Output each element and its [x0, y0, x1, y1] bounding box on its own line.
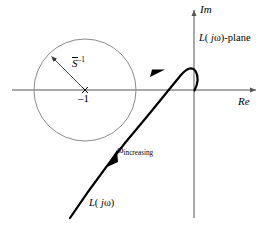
curve-label: L( jω): [89, 198, 114, 209]
omega-subscript: increasing: [124, 149, 154, 157]
nyquist-diagram: Im Re L( jω)-plane S–1 –1 ωincreasing L(…: [0, 0, 268, 226]
plane-label: L( jω)-plane: [199, 33, 251, 44]
omega-symbol: ω: [117, 144, 124, 155]
plane-label-omega: ω: [214, 32, 221, 43]
curve-direction-arrow-upper: [150, 70, 165, 78]
critical-point-label: –1: [78, 93, 89, 104]
nyquist-curve: [70, 68, 197, 218]
sensitivity-exponent: –1: [78, 55, 85, 64]
curve-label-omega: ω: [104, 197, 111, 208]
imaginary-axis-label: Im: [200, 4, 212, 15]
plane-label-suffix: -plane: [224, 32, 250, 43]
omega-increasing-label: ωincreasing: [117, 145, 153, 155]
sensitivity-radius-label: S–1: [72, 57, 85, 69]
real-axis-label: Re: [238, 96, 250, 107]
curve-label-close: ): [111, 197, 115, 208]
